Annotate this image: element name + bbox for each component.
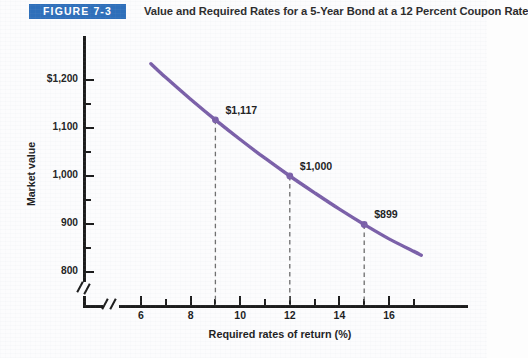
bond-value-curve xyxy=(151,64,421,256)
data-point-label: $1,117 xyxy=(225,104,257,116)
data-point-marker xyxy=(286,173,293,180)
data-point-marker xyxy=(361,221,368,228)
data-point-label: $1,000 xyxy=(300,160,332,172)
data-point-label: $899 xyxy=(374,208,398,220)
data-point-marker xyxy=(212,116,219,123)
